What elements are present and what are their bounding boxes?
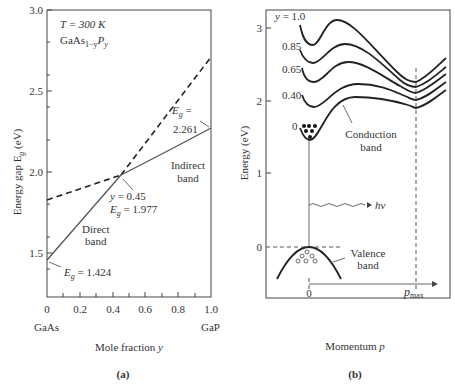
indirect-band-label-1: Indirect [171, 159, 205, 171]
temperature-label: T = 300 K [60, 18, 106, 30]
ytick-b-0: 0 [257, 241, 263, 253]
xtick-a-0-2: 0.2 [73, 303, 87, 315]
ytick-a-1-5: 1.5 [29, 247, 43, 259]
momentum-arrowhead [432, 281, 438, 287]
conduction-band-arrow [343, 105, 352, 123]
panel-a-chart: 3.0 2.5 2.0 1.5 0 0.2 0.4 0.6 0.8 1.0 Ga… [11, 4, 220, 381]
curve-label-0: 0 [292, 120, 298, 132]
direct-band-label-2: band [85, 235, 107, 247]
conduction-curve-y-1-0 [300, 20, 446, 82]
conduction-band-label-1: Conduction [345, 128, 397, 140]
ytick-a-2-5: 2.5 [29, 85, 43, 97]
panel-a-x-axis-label: Mole fraction y [95, 341, 163, 353]
photon-label: hν [375, 199, 386, 211]
panel-b-y-ticks [266, 28, 271, 173]
panel-a-x-ticks [63, 292, 195, 297]
figure: 3.0 2.5 2.0 1.5 0 0.2 0.4 0.6 0.8 1.0 Ga… [0, 0, 455, 384]
crossover-eg-label: Eg = 1.977 [109, 203, 158, 218]
panel-a-plot-frame [47, 10, 211, 297]
material-label: GaAs1−yPy [60, 34, 108, 49]
conduction-band-label-2: band [360, 141, 382, 153]
panel-b-y-axis-label: Energy (eV) [238, 125, 251, 180]
xtick-b-0: 0 [306, 287, 312, 299]
photon-arrowhead [367, 202, 372, 208]
eg-gap-annot: Eg = [171, 104, 192, 119]
panel-a-caption: (a) [117, 368, 130, 381]
xtick-b-pmax: pmax [403, 285, 424, 300]
xtick-a-1-0: 1.0 [204, 303, 218, 315]
direct-band-label-1: Direct [82, 223, 109, 235]
panel-b-chart: 3 2 1 0 Energy (eV) y = 1.0 0.85 0.65 0.… [238, 10, 450, 381]
xtick-a-0-6: 0.6 [138, 303, 152, 315]
crossover-arrow [123, 179, 133, 190]
conduction-curve-y-0-40 [302, 82, 446, 107]
panel-b-x-axis-label: Momentum p [325, 340, 385, 352]
gaas-eg-arrow [49, 262, 61, 267]
ytick-b-2: 2 [257, 95, 263, 107]
photon-wave [309, 204, 365, 207]
curve-label-y-1-0: y = 1.0 [274, 10, 306, 22]
ytick-b-1: 1 [257, 167, 263, 179]
eg-gap-arrow [200, 121, 209, 127]
ytick-b-3: 3 [257, 22, 263, 34]
direct-gap-line-solid [47, 175, 121, 260]
crossover-y-label: yy = 0.45 = 0.45 [109, 190, 146, 202]
eg-gap-value: 2.261 [173, 123, 198, 135]
indirect-band-label-2: band [177, 172, 199, 184]
valence-band-label-1: Valence [351, 247, 386, 259]
ytick-a-2-0: 2.0 [29, 166, 43, 178]
conduction-curve-y-0-85 [300, 44, 446, 87]
curve-label-0-40: 0.40 [282, 89, 302, 101]
panel-b-caption: (b) [348, 368, 362, 381]
xtick-a-0: 0 [44, 303, 50, 315]
valence-band-label-2: band [357, 259, 379, 271]
ytick-a-3-0: 3.0 [29, 4, 43, 16]
gaas-eg-label: Eg = 1.424 [63, 266, 112, 281]
xtick-a-0-8: 0.8 [171, 303, 185, 315]
hole-circles [296, 250, 317, 263]
panel-a-y-ticks [47, 10, 52, 269]
curve-label-0-65: 0.65 [282, 63, 302, 75]
x-end-label-gaas: GaAs [34, 321, 59, 333]
curve-label-0-85: 0.85 [282, 40, 302, 52]
xtick-a-0-4: 0.4 [106, 303, 120, 315]
direct-gap-line-dashed [121, 57, 211, 175]
panel-a-y-axis-label: Energy gap Eg (eV) [11, 128, 26, 215]
valence-band-arrow [333, 258, 345, 262]
x-end-label-gap: GaP [201, 321, 220, 333]
